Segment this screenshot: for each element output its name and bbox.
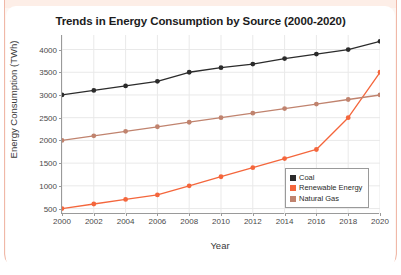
line-chart-figure: Trends in Energy Consumption by Source (… <box>0 0 401 275</box>
x-tick-mark <box>348 213 349 216</box>
data-point <box>346 97 351 102</box>
y-tick-label: 4000 <box>39 45 57 54</box>
data-point <box>378 70 380 75</box>
x-tick-label: 2012 <box>244 217 262 226</box>
x-tick-label: 2020 <box>371 217 389 226</box>
x-tick-label: 2002 <box>85 217 103 226</box>
data-point <box>91 133 96 138</box>
y-tick-mark <box>59 186 62 187</box>
x-tick-mark <box>189 213 190 216</box>
x-axis-label: Year <box>61 240 379 251</box>
y-tick-label: 500 <box>44 204 57 213</box>
x-tick-mark <box>157 213 158 216</box>
x-tick-label: 2018 <box>339 217 357 226</box>
data-point <box>91 202 96 207</box>
y-tick-label: 3000 <box>39 90 57 99</box>
data-point <box>250 111 255 116</box>
legend-item-renewable-energy[interactable]: Renewable Energy <box>290 183 364 193</box>
data-point <box>346 47 351 52</box>
data-point <box>62 138 64 143</box>
x-tick-mark <box>126 213 127 216</box>
data-point <box>378 39 380 44</box>
x-tick-mark <box>62 213 63 216</box>
chart-title: Trends in Energy Consumption by Source (… <box>0 15 401 27</box>
data-point <box>219 115 224 120</box>
y-tick-label: 3500 <box>39 68 57 77</box>
data-point <box>155 193 160 198</box>
legend-label: Coal <box>299 174 314 182</box>
data-point <box>314 147 319 152</box>
y-tick-label: 2000 <box>39 136 57 145</box>
y-tick-mark <box>59 72 62 73</box>
data-point <box>187 120 192 125</box>
chart-legend: CoalRenewable EnergyNatural Gas <box>285 168 369 208</box>
y-tick-mark <box>59 209 62 210</box>
legend-swatch-icon <box>290 185 296 191</box>
data-point <box>123 83 128 88</box>
data-point <box>314 52 319 57</box>
x-tick-label: 2000 <box>53 217 71 226</box>
x-tick-mark <box>94 213 95 216</box>
data-point <box>155 79 160 84</box>
chart-page: Trends in Energy Consumption by Source (… <box>0 0 401 275</box>
data-point <box>250 165 255 170</box>
x-tick-label: 2014 <box>276 217 294 226</box>
data-point <box>282 156 287 161</box>
legend-item-coal[interactable]: Coal <box>290 173 364 183</box>
y-tick-mark <box>59 95 62 96</box>
data-point <box>155 124 160 129</box>
x-tick-label: 2008 <box>180 217 198 226</box>
data-point <box>62 206 64 211</box>
x-tick-mark <box>316 213 317 216</box>
x-tick-mark <box>380 213 381 216</box>
y-tick-label: 1500 <box>39 159 57 168</box>
y-tick-mark <box>59 140 62 141</box>
x-tick-label: 2016 <box>307 217 325 226</box>
y-tick-label: 1000 <box>39 181 57 190</box>
y-tick-label: 2500 <box>39 113 57 122</box>
data-point <box>123 197 128 202</box>
data-point <box>314 102 319 107</box>
legend-item-natural-gas[interactable]: Natural Gas <box>290 194 364 204</box>
legend-swatch-icon <box>290 196 296 202</box>
y-tick-mark <box>59 50 62 51</box>
legend-label: Natural Gas <box>299 195 339 203</box>
data-point <box>123 129 128 134</box>
legend-label: Renewable Energy <box>299 184 362 192</box>
x-tick-label: 2010 <box>212 217 230 226</box>
data-point <box>250 62 255 67</box>
data-point <box>187 70 192 75</box>
data-point <box>219 174 224 179</box>
data-point <box>282 106 287 111</box>
data-point <box>378 93 380 98</box>
data-point <box>346 115 351 120</box>
data-point <box>282 56 287 61</box>
x-tick-mark <box>221 213 222 216</box>
data-point <box>187 183 192 188</box>
data-point <box>91 88 96 93</box>
x-tick-label: 2004 <box>117 217 135 226</box>
x-tick-mark <box>285 213 286 216</box>
x-tick-label: 2006 <box>148 217 166 226</box>
data-point <box>62 93 64 98</box>
x-tick-mark <box>253 213 254 216</box>
y-tick-mark <box>59 163 62 164</box>
y-axis-label: Energy Consumption (TWh) <box>8 5 19 195</box>
legend-swatch-icon <box>290 175 296 181</box>
y-tick-mark <box>59 118 62 119</box>
data-point <box>219 65 224 70</box>
